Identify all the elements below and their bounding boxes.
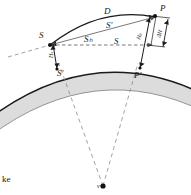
chord-s-prime-line xyxy=(50,17,155,45)
height-p-line xyxy=(140,17,150,68)
ellipsoid-band xyxy=(0,72,191,136)
label-horizontal-distance: Sₕ xyxy=(84,34,93,44)
label-station-p-prime: P' xyxy=(133,70,142,80)
label-station-s: S xyxy=(39,30,44,40)
tangent-dashed-left xyxy=(8,45,50,57)
label-chord-s-prime: S' xyxy=(106,20,114,30)
label-height-difference: ΔH xyxy=(155,28,164,39)
delta-h-inner-line xyxy=(151,16,156,45)
figure-container: S P D S' Sₕ S Hₛ Hₚ ΔH S' P' v ke xyxy=(0,0,191,195)
label-station-s-prime: S' xyxy=(57,68,65,78)
label-arc-distance: D xyxy=(103,6,111,16)
caption-fragment: ke xyxy=(2,174,11,184)
delta-h-arrowhead-top xyxy=(164,20,169,25)
label-height-p: Hₚ xyxy=(135,31,143,41)
point-p-dot xyxy=(153,14,157,18)
diagram-svg: S P D S' Sₕ S Hₛ Hₚ ΔH S' P' v xyxy=(0,0,191,195)
label-ellipsoid-distance: S xyxy=(114,36,119,46)
point-s-dot xyxy=(48,43,52,47)
delta-h-arrowhead-bottom xyxy=(162,41,167,46)
earth-center-dot xyxy=(100,183,105,188)
height-p-arrowhead-bottom xyxy=(139,62,144,67)
label-height-s: Hₛ xyxy=(48,51,54,59)
label-earth-center: v xyxy=(97,183,100,189)
label-station-p: P xyxy=(159,3,166,13)
